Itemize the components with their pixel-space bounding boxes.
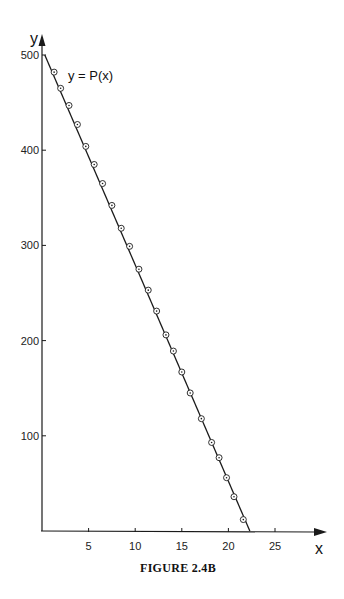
data-point-dot (85, 146, 87, 148)
data-point-dot (102, 183, 104, 185)
y-axis-label: y (30, 30, 38, 47)
y-tick-label: 400 (21, 144, 39, 156)
y-tick-label: 500 (21, 49, 39, 61)
y-axis-arrow-icon (39, 34, 46, 46)
data-point-dot (147, 289, 149, 291)
figure-caption: FIGURE 2.4B (140, 561, 216, 575)
x-tick-label: 25 (269, 540, 281, 552)
data-point-dot (165, 334, 167, 336)
data-point-dot (181, 371, 183, 373)
axes: 100200300400500 510152025 y x (21, 30, 327, 557)
data-point-dot (218, 457, 220, 459)
data-point-dot (189, 392, 191, 394)
y-tick-label: 100 (21, 430, 39, 442)
x-tick-label: 20 (222, 540, 234, 552)
x-axis-arrow-icon (314, 528, 327, 536)
chart-figure: 100200300400500 510152025 y x y = P(x) F… (0, 0, 344, 599)
data-point-dot (173, 350, 175, 352)
data-point-dot (53, 71, 55, 73)
x-tick-label: 5 (86, 540, 92, 552)
data-point-dot (68, 105, 70, 107)
y-tick-label: 300 (21, 239, 39, 251)
x-tick-label: 10 (129, 540, 141, 552)
x-tick-label: 15 (176, 540, 188, 552)
data-point-dot (138, 268, 140, 270)
data-point-dot (243, 519, 245, 521)
plot-area: y = P(x) (45, 55, 250, 531)
data-point-dot (156, 310, 158, 312)
data-point-dot (233, 496, 235, 498)
data-point-dot (211, 442, 213, 444)
curve-label: y = P(x) (68, 68, 113, 83)
data-point-dot (77, 124, 79, 126)
data-point-dot (111, 205, 113, 207)
data-point-dot (201, 418, 203, 420)
data-point-dot (93, 164, 95, 166)
x-axis-label: x (315, 540, 323, 557)
y-tick-label: 200 (21, 335, 39, 347)
data-point-dot (226, 477, 228, 479)
data-point-dot (60, 88, 62, 90)
data-point-dot (120, 227, 122, 229)
data-point-dot (129, 246, 131, 248)
